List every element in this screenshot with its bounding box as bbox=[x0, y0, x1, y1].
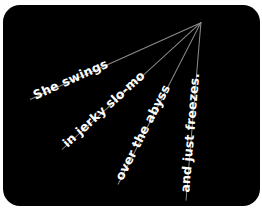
black-panel bbox=[3, 5, 260, 206]
